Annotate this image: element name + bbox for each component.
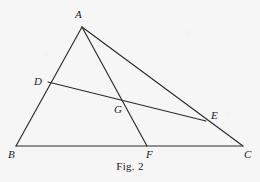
segment-AF <box>82 27 147 146</box>
vertex-label-E: E <box>211 110 218 121</box>
vertex-label-A: A <box>75 9 82 20</box>
segment-AB <box>16 27 82 146</box>
vertex-label-D: D <box>34 76 42 87</box>
figure-caption: Fig. 2 <box>0 161 260 172</box>
segment-AC <box>82 27 243 146</box>
vertex-label-F: F <box>146 149 153 160</box>
geometry-drawing <box>0 0 260 182</box>
figure-container: A B C D E F G Fig. 2 <box>0 0 260 182</box>
vertex-label-C: C <box>244 149 251 160</box>
segment-group <box>16 27 243 146</box>
vertex-label-G: G <box>114 104 122 115</box>
vertex-label-B: B <box>8 149 15 160</box>
